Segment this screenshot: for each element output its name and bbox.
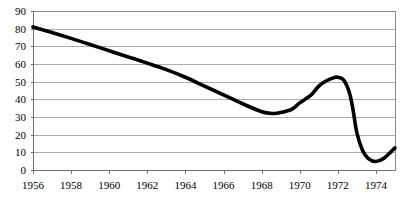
y-tick-label-70: 70 — [15, 40, 27, 52]
y-tick-label-30: 30 — [15, 111, 27, 123]
x-tick-label-1958: 1958 — [60, 179, 83, 191]
x-tick-label-1974: 1974 — [365, 179, 388, 191]
y-tick-label-0: 0 — [21, 164, 27, 176]
y-tick-label-20: 20 — [15, 129, 27, 141]
x-tick-label-1960: 1960 — [98, 179, 121, 191]
y-tick-label-10: 10 — [15, 146, 27, 158]
x-tick-label-1970: 1970 — [289, 179, 312, 191]
x-tick-label-1962: 1962 — [136, 179, 158, 191]
x-tick-label-1968: 1968 — [251, 179, 274, 191]
y-tick-label-90: 90 — [15, 5, 27, 17]
x-axis-tick-labels: 1956195819601962196419661968197019721974 — [22, 179, 387, 191]
gridlines — [33, 12, 395, 153]
x-tick-label-1964: 1964 — [174, 179, 197, 191]
series-line-1 — [33, 27, 395, 162]
y-tick-label-50: 50 — [15, 76, 27, 88]
x-tick-label-1972: 1972 — [327, 179, 349, 191]
y-tick-label-40: 40 — [15, 93, 27, 105]
chart-container: 0102030405060708090 19561958196019621964… — [0, 0, 417, 206]
line-chart: 0102030405060708090 19561958196019621964… — [0, 0, 417, 206]
data-series — [33, 27, 395, 162]
y-tick-label-80: 80 — [15, 23, 27, 35]
y-tick-label-60: 60 — [15, 58, 27, 70]
y-axis-tick-labels: 0102030405060708090 — [15, 5, 27, 176]
x-tick-label-1966: 1966 — [213, 179, 236, 191]
x-tick-label-1956: 1956 — [22, 179, 45, 191]
